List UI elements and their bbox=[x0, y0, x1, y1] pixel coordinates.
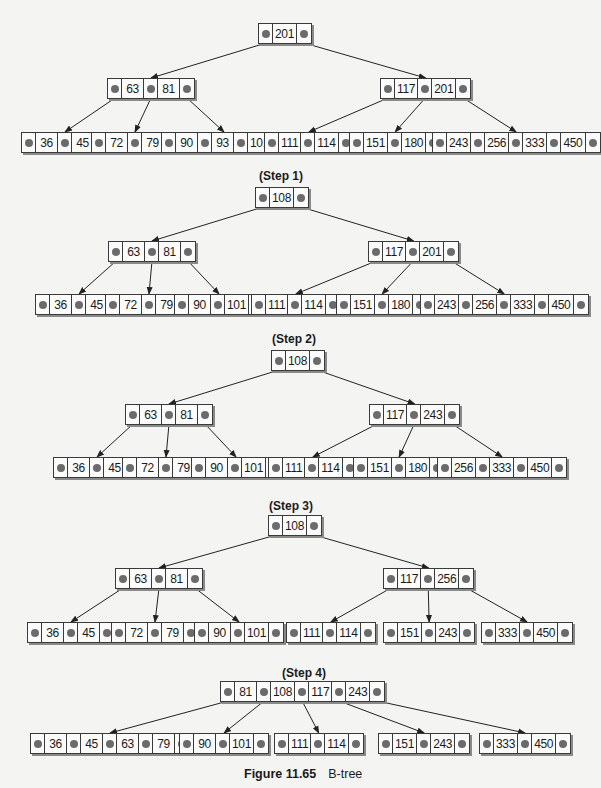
node-key: 101 bbox=[230, 734, 254, 753]
pointer-dot-icon bbox=[275, 734, 289, 753]
tree-node: 6381 bbox=[125, 404, 213, 425]
node-key: 93 bbox=[212, 133, 234, 152]
node-key: 101 bbox=[225, 295, 249, 314]
node-key: 333 bbox=[490, 458, 514, 477]
pointer-dot-icon bbox=[269, 458, 283, 477]
pointer-dot-icon bbox=[221, 682, 235, 701]
node-key: 256 bbox=[485, 133, 509, 152]
node-key: 108 bbox=[270, 188, 294, 207]
edge-arrow bbox=[377, 701, 525, 733]
edge-arrow bbox=[110, 701, 228, 733]
pointer-dot-icon bbox=[471, 133, 485, 152]
node-key: 151 bbox=[364, 133, 388, 152]
pointer-dot-icon bbox=[103, 734, 117, 753]
pointer-dot-icon bbox=[148, 623, 162, 642]
edge-arrow bbox=[155, 588, 159, 622]
pointer-dot-icon bbox=[152, 569, 166, 588]
pointer-dot-icon bbox=[305, 458, 319, 477]
node-key: 114 bbox=[319, 458, 342, 477]
node-key: 450 bbox=[534, 623, 558, 642]
node-key: 108 bbox=[283, 516, 307, 535]
tree-node: 111114 bbox=[251, 294, 341, 315]
edge-arrow bbox=[304, 43, 426, 78]
pointer-dot-icon bbox=[480, 734, 494, 753]
node-key: 36 bbox=[50, 295, 72, 314]
pointer-dot-icon bbox=[269, 516, 283, 535]
node-key: 450 bbox=[532, 734, 556, 753]
step-label: (Step 1) bbox=[259, 169, 303, 183]
node-key: 201 bbox=[432, 79, 456, 98]
node-key: 45 bbox=[81, 734, 103, 753]
tree-node: 151180 bbox=[349, 132, 441, 153]
pointer-dot-icon bbox=[234, 133, 248, 152]
edge-arrow bbox=[395, 98, 425, 132]
pointer-dot-icon bbox=[445, 405, 459, 424]
tree-node: 243256333450 bbox=[432, 132, 601, 153]
node-key: 117 bbox=[384, 405, 407, 424]
pointer-dot-icon bbox=[162, 405, 176, 424]
node-key: 36 bbox=[68, 458, 90, 477]
pointer-dot-icon bbox=[370, 682, 384, 701]
node-key: 90 bbox=[189, 295, 211, 314]
step-label: (Step 2) bbox=[272, 332, 316, 346]
edge-arrow bbox=[187, 98, 224, 132]
edge-arrow bbox=[317, 370, 415, 404]
node-key: 151 bbox=[368, 458, 392, 477]
node-key: 63 bbox=[117, 734, 139, 753]
node-key: 151 bbox=[351, 295, 375, 314]
node-key: 79 bbox=[162, 623, 184, 642]
pointer-dot-icon bbox=[388, 133, 402, 152]
edge-arrow bbox=[466, 588, 527, 622]
pointer-dot-icon bbox=[159, 458, 173, 477]
node-key: 111 bbox=[301, 623, 323, 642]
pointer-dot-icon bbox=[332, 682, 346, 701]
pointer-dot-icon bbox=[337, 295, 351, 314]
edge-arrow bbox=[399, 424, 414, 457]
node-key: 90 bbox=[209, 623, 231, 642]
edge-arrow bbox=[151, 43, 266, 78]
node-key: 72 bbox=[106, 133, 128, 152]
pointer-dot-icon bbox=[497, 295, 511, 314]
pointer-dot-icon bbox=[375, 295, 389, 314]
pointer-dot-icon bbox=[370, 405, 384, 424]
node-key: 90 bbox=[194, 734, 216, 753]
node-key: 90 bbox=[206, 458, 228, 477]
pointer-dot-icon bbox=[256, 188, 270, 207]
node-key: 63 bbox=[122, 79, 144, 98]
pointer-dot-icon bbox=[418, 79, 432, 98]
pointer-dot-icon bbox=[369, 242, 383, 261]
pointer-dot-icon bbox=[433, 133, 447, 152]
tree-node: 6381 bbox=[115, 568, 203, 589]
pointer-dot-icon bbox=[58, 133, 72, 152]
pointer-dot-icon bbox=[231, 623, 245, 642]
node-key: 81 bbox=[235, 682, 257, 701]
pointer-dot-icon bbox=[552, 458, 566, 477]
edge-arrow bbox=[71, 588, 123, 622]
pointer-dot-icon bbox=[460, 623, 474, 642]
pointer-dot-icon bbox=[112, 623, 126, 642]
node-key: 333 bbox=[523, 133, 547, 152]
node-key: 243 bbox=[431, 734, 455, 753]
pointer-dot-icon bbox=[558, 623, 572, 642]
pointer-dot-icon bbox=[297, 24, 311, 43]
node-key: 63 bbox=[123, 242, 145, 261]
pointer-dot-icon bbox=[323, 623, 337, 642]
node-key: 101 bbox=[242, 458, 266, 477]
pointer-dot-icon bbox=[406, 242, 420, 261]
pointer-dot-icon bbox=[192, 458, 206, 477]
pointer-dot-icon bbox=[257, 682, 271, 701]
pointer-dot-icon bbox=[198, 133, 212, 152]
pointer-dot-icon bbox=[556, 734, 570, 753]
root-node: 108 bbox=[271, 350, 325, 371]
node-key: 45 bbox=[78, 623, 100, 642]
pointer-dot-icon bbox=[211, 295, 225, 314]
pointer-dot-icon bbox=[384, 623, 398, 642]
node-key: 111 bbox=[279, 133, 301, 152]
node-key: 81 bbox=[166, 569, 188, 588]
pointer-dot-icon bbox=[455, 734, 469, 753]
tree-node: 256333450 bbox=[437, 457, 567, 478]
pointer-dot-icon bbox=[514, 458, 528, 477]
pointer-dot-icon bbox=[180, 734, 194, 753]
node-key: 36 bbox=[45, 734, 67, 753]
pointer-dot-icon bbox=[109, 242, 123, 261]
